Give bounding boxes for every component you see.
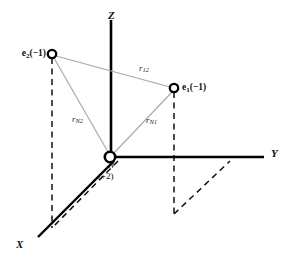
distance-label-rN2-subscript: N2 <box>76 117 84 124</box>
dashed-plane-edge-right <box>174 161 230 214</box>
ray-rN1 <box>114 92 172 153</box>
distance-rays <box>54 56 172 153</box>
coordinate-diagram-svg <box>0 0 291 261</box>
axis-lines <box>38 20 264 237</box>
distance-label-r12-subscript: 12 <box>143 66 150 73</box>
node-marker-electron-1[interactable] <box>170 84 178 92</box>
node-label-nucleus-charge: (+2) <box>98 172 114 181</box>
distance-label-rN2: rN2 <box>72 115 83 125</box>
node-label-electron-2-charge: (−1) <box>30 48 47 58</box>
node-label-electron-1: e1(−1) <box>182 83 206 94</box>
node-label-nucleus: N <box>108 161 114 171</box>
node-marker-electron-2[interactable] <box>48 50 56 58</box>
node-label-electron-1-charge: (−1) <box>190 82 207 92</box>
axis-label-z: Z <box>108 10 115 21</box>
distance-label-r12: r12 <box>139 64 149 74</box>
figure-container: Z Y X e2(−1) e1(−1) N (+2) r12 rN2 rN1 <box>0 0 291 261</box>
distance-label-rN1: rN1 <box>146 116 157 126</box>
ray-rN2 <box>54 58 108 152</box>
axis-label-x: X <box>16 239 23 250</box>
ray-r12 <box>56 56 170 87</box>
distance-label-rN1-subscript: N1 <box>150 118 158 125</box>
node-label-electron-2: e2(−1) <box>22 49 46 60</box>
axis-label-y: Y <box>271 148 278 159</box>
